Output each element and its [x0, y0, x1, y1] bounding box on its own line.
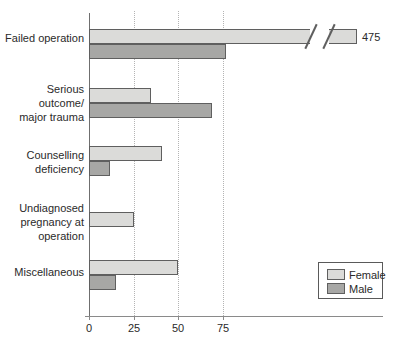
legend-item-female: Female	[327, 268, 382, 281]
legend: Female Male	[318, 262, 383, 299]
female-color-swatch	[327, 269, 345, 280]
bar-male-0	[89, 44, 226, 59]
legend-label-male: Male	[349, 283, 373, 295]
legend-item-male: Male	[327, 282, 382, 295]
bar-male-4	[89, 275, 116, 290]
category-label-2: Counsellingdeficiency	[0, 148, 84, 176]
bar-male-2	[89, 161, 110, 176]
grouped-bar-chart: 0255075 Failed operationSerious outcome/…	[0, 0, 396, 347]
x-tick-label-50: 50	[172, 322, 184, 334]
category-label-3: Undiagnosedpregnancy atoperation	[0, 201, 84, 243]
bar-male-1	[89, 103, 212, 118]
bar-female-1	[89, 88, 151, 103]
bar-female-2	[89, 146, 162, 161]
category-label-4: Miscellaneous	[0, 265, 84, 279]
bar-female-3	[89, 212, 134, 227]
category-label-0: Failed operation	[0, 31, 84, 45]
x-tick-label-75: 75	[217, 322, 229, 334]
x-tick-label-0: 0	[86, 322, 92, 334]
bar-female-4	[89, 260, 178, 275]
category-label-1: Serious outcome/major trauma	[0, 82, 84, 124]
male-color-swatch	[327, 283, 345, 294]
x-tick-label-25: 25	[128, 322, 140, 334]
x-axis-line	[85, 316, 383, 317]
axis-break-value-annotation: 475	[362, 31, 380, 43]
legend-label-female: Female	[349, 269, 386, 281]
